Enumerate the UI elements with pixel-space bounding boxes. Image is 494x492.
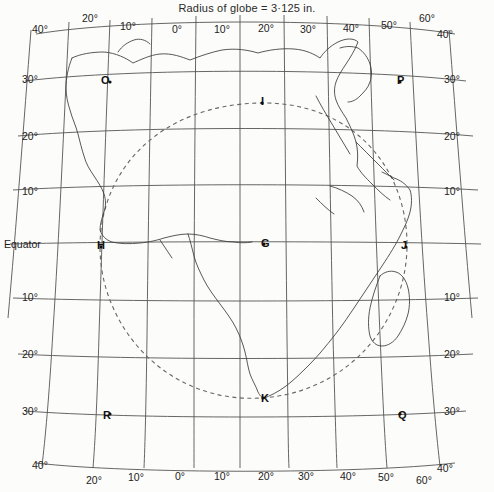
point-markers [99,80,407,415]
latitude-label-left: 40° [32,459,48,471]
meridian-label-bottom: 30° [298,470,314,482]
meridian-label-top: 50° [381,19,397,31]
equator-label: Equator [4,238,41,250]
meridian-label-top: 10° [120,20,136,32]
meridian-label-top: 20° [258,22,274,34]
latitude-label-right: 30° [444,73,460,85]
latitude-label-right: 20° [444,348,460,360]
latitude-label-left: 30° [22,73,38,85]
graticule-parallels [10,22,481,471]
meridian-label-bottom: 60° [416,474,432,486]
map-figure: Radius of globe = 3·125 in. [0,0,494,492]
meridian-label-bottom: 0° [175,470,185,482]
latitude-label-left: 10° [22,185,38,197]
latitude-label-left: 30° [22,405,38,417]
latitude-label-right: 20° [444,130,460,142]
meridian-label-top: 10° [214,23,230,35]
latitude-label-right: 10° [444,185,460,197]
meridian-label-bottom: 40° [340,470,356,482]
point-label-h: H [97,239,105,251]
meridian-label-bottom: 20° [86,474,102,486]
latitude-label-left: 10° [22,291,38,303]
latitude-label-right: 30° [444,405,460,417]
meridian-label-bottom: 20° [258,470,274,482]
meridian-label-bottom: 50° [378,471,394,483]
point-label-p: P [397,74,404,86]
map-canvas [0,0,494,492]
meridian-label-top: 30° [300,23,316,35]
point-label-q: Q [398,409,407,421]
latitude-label-left: 40° [32,23,48,35]
latitude-label-right: 40° [437,28,453,40]
point-label-k: K [261,392,269,404]
point-label-o: O [101,74,110,86]
point-label-j: J [401,239,407,251]
meridian-label-bottom: 10° [128,471,144,483]
latitude-label-right: 40° [437,462,453,474]
latitude-label-left: 20° [22,130,38,142]
meridian-label-top: 60° [419,12,435,24]
meridian-label-top: 20° [82,12,98,24]
point-label-g: G [261,237,270,249]
latitude-label-right: 10° [444,291,460,303]
point-label-i: I [261,95,264,107]
meridian-label-bottom: 10° [214,470,230,482]
latitude-label-left: 20° [22,348,38,360]
africa-coastline [66,39,412,398]
meridian-label-top: 40° [343,22,359,34]
meridian-label-top: 0° [172,23,182,35]
point-label-r: R [103,409,111,421]
